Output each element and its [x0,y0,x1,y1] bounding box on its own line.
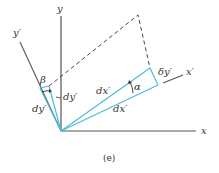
beta-label: β [40,75,46,85]
alpha-angle-arc [130,82,133,93]
y-axis-label: y [57,4,63,14]
y-prime-axis-label: y′ [13,28,21,38]
dy-prime-leader [56,97,61,98]
dx-prime-lower-label: dx′ [113,104,127,114]
dy-prime-outer-label: dy′ [32,104,46,114]
dx-prime-upper-label: dx′ [96,86,110,96]
x-axis-label: x [201,126,207,136]
strain-diagram: y x y′ x′ β α dy′ dy′ dx′ dx′ δy′ (e) [0,0,219,173]
delta-y-prime-label: δy′ [158,67,172,77]
delta-y-prime-edge [150,68,158,85]
dashed-deformed-outline [49,15,150,86]
x-prime-axis-label: x′ [186,67,194,77]
top-edge-left [40,86,49,88]
figure-caption: (e) [103,153,115,163]
alpha-label: α [134,82,141,92]
dy-prime-inner-label: dy′ [63,92,77,102]
